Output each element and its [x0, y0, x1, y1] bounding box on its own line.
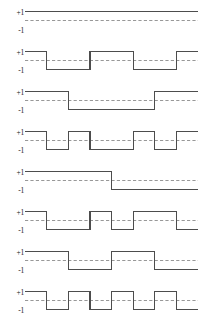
axis-label-low: -1	[18, 107, 24, 115]
waveform-plot	[25, 240, 198, 280]
waveform-row: +1-1	[0, 240, 206, 280]
axis-label-group: +1-1	[0, 40, 24, 80]
axis-label-group: +1-1	[0, 120, 24, 160]
axis-label-low: -1	[18, 187, 24, 195]
waveform-plot	[25, 120, 198, 160]
walsh-function-figure: +1-1+1-1+1-1+1-1+1-1+1-1+1-1+1-1	[0, 0, 206, 333]
waveform-plot	[25, 40, 198, 80]
waveform-plot	[25, 0, 198, 40]
axis-label-low: -1	[18, 27, 24, 35]
axis-label-low: -1	[18, 67, 24, 75]
axis-label-group: +1-1	[0, 240, 24, 280]
waveform-plot	[25, 80, 198, 120]
waveform-row: +1-1	[0, 80, 206, 120]
axis-label-high: +1	[16, 169, 24, 177]
axis-label-high: +1	[16, 289, 24, 297]
axis-label-high: +1	[16, 209, 24, 217]
waveform-row: +1-1	[0, 40, 206, 80]
axis-label-group: +1-1	[0, 80, 24, 120]
waveform-row: +1-1	[0, 280, 206, 320]
waveform-row: +1-1	[0, 160, 206, 200]
axis-label-group: +1-1	[0, 0, 24, 40]
axis-label-high: +1	[16, 49, 24, 57]
axis-label-low: -1	[18, 147, 24, 155]
axis-label-group: +1-1	[0, 160, 24, 200]
axis-label-group: +1-1	[0, 200, 24, 240]
axis-label-high: +1	[16, 249, 24, 257]
waveform-row: +1-1	[0, 120, 206, 160]
waveform-plot	[25, 280, 198, 320]
waveform-row: +1-1	[0, 200, 206, 240]
waveform-row: +1-1	[0, 0, 206, 40]
axis-label-high: +1	[16, 89, 24, 97]
axis-label-low: -1	[18, 227, 24, 235]
waveform-plot	[25, 160, 198, 200]
waveform-plot	[25, 200, 198, 240]
axis-label-low: -1	[18, 267, 24, 275]
axis-label-high: +1	[16, 129, 24, 137]
axis-label-low: -1	[18, 307, 24, 315]
axis-label-group: +1-1	[0, 280, 24, 320]
axis-label-high: +1	[16, 9, 24, 17]
